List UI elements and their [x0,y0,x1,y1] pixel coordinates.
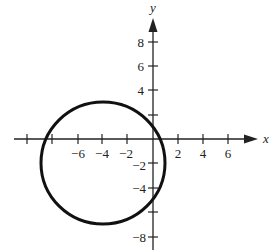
x-tick-label: −4 [95,146,109,161]
x-tick-label: 4 [200,146,207,161]
circle-curve [41,102,165,224]
y-tick-label: 4 [138,83,145,98]
y-axis: 8 6 4 −2 −4 −8 y [132,0,158,250]
x-axis: −6 −4 −2 2 4 6 x [14,131,269,161]
x-tick-label: 6 [225,146,232,161]
x-axis-label: x [262,131,269,146]
y-tick-label: −2 [132,158,146,173]
y-axis-label: y [148,0,156,15]
y-tick-label: 6 [138,59,145,74]
y-tick-label: −8 [132,230,146,245]
x-tick-label: −6 [71,146,85,161]
x-tick-label: −2 [119,146,133,161]
x-axis-arrow-icon [244,135,258,144]
y-axis-arrow-icon [149,18,158,32]
x-tick-label: 2 [175,146,182,161]
y-tick-label: −4 [132,181,146,196]
circle-graph: −6 −4 −2 2 4 6 x 8 6 4 −2 −4 −8 y [0,0,272,250]
y-tick-label: 8 [138,35,145,50]
